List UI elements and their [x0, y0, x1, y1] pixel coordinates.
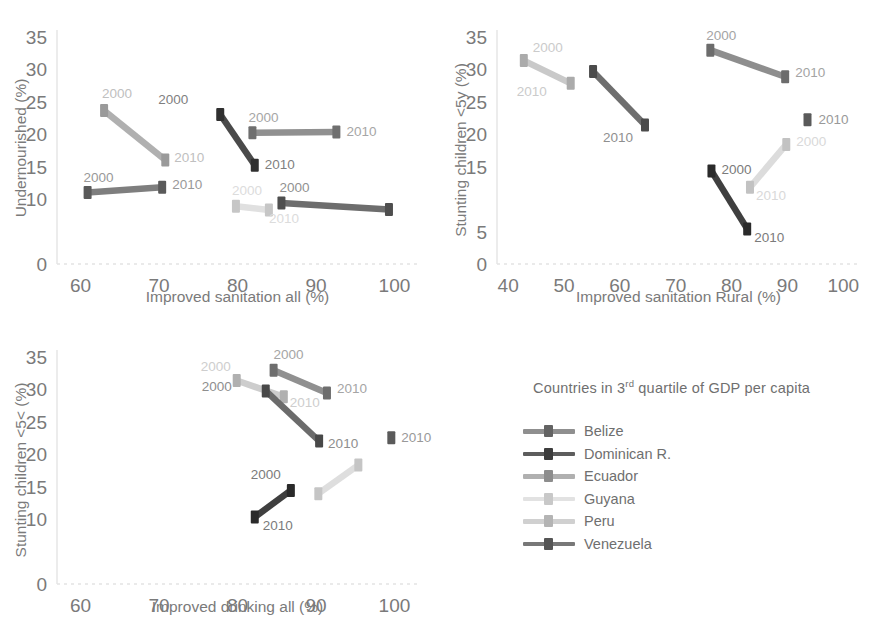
data-point-marker	[158, 181, 166, 194]
series-ecuador: 20002010	[100, 86, 204, 167]
data-point-marker	[804, 113, 812, 126]
y-tick-label: 10	[26, 509, 47, 530]
legend-item-belize[interactable]: Belize	[523, 420, 873, 443]
legend-swatch-icon	[523, 423, 575, 439]
legend-item-peru[interactable]: Peru	[523, 510, 873, 533]
data-point-marker	[641, 118, 649, 131]
series-venezuela: 2010	[589, 65, 649, 145]
data-point-marker	[323, 386, 331, 399]
data-point-year-label: 2010	[172, 177, 202, 192]
data-point-marker	[277, 196, 285, 209]
data-point-year-label: 2000	[533, 40, 563, 55]
y-tick-label: 20	[466, 124, 487, 145]
x-axis-title: Improved sanitation all (%)	[146, 288, 330, 305]
y-tick-label: 0	[476, 254, 487, 275]
data-point-marker	[354, 459, 362, 472]
series-line	[104, 111, 165, 160]
x-tick-label: 40	[498, 275, 519, 296]
data-point-year-label: 2000	[232, 183, 262, 198]
data-point-marker	[520, 54, 528, 67]
data-point-marker	[248, 126, 256, 139]
y-axis-title: Undernourished (%)	[12, 79, 29, 218]
data-point-year-label: 2010	[265, 157, 295, 172]
y-tick-label: 20	[26, 124, 47, 145]
legend-swatch-icon	[523, 446, 575, 462]
legend-item-ecuador[interactable]: Ecuador	[523, 465, 873, 488]
legend-item-guyana[interactable]: Guyana	[523, 487, 873, 510]
series-belize: 20002010	[706, 28, 825, 83]
plot-area: 010152025303560708090100Undernourished (…	[0, 0, 440, 320]
series-line	[237, 381, 284, 397]
y-tick-label: 0	[36, 254, 47, 275]
y-tick-label: 35	[466, 27, 487, 48]
data-point-marker	[287, 484, 295, 497]
data-point-year-label: 2000	[201, 359, 231, 374]
y-tick-label: 0	[36, 574, 47, 595]
y-tick-label: 25	[26, 92, 47, 113]
legend-item-dominican-r[interactable]: Dominican R.	[523, 442, 873, 465]
y-tick-label: 10	[26, 189, 47, 210]
y-tick-label: 35	[26, 347, 47, 368]
data-point-marker	[270, 364, 278, 377]
data-point-year-label: 2010	[174, 150, 204, 165]
x-tick-label: 60	[70, 595, 91, 616]
legend-item-label: Dominican R.	[584, 446, 671, 462]
data-point-year-label: 2010	[269, 211, 299, 226]
x-tick-label: 60	[70, 275, 91, 296]
data-point-marker	[707, 165, 715, 178]
legend-item-venezuela[interactable]: Venezuela	[523, 532, 873, 555]
series-line	[281, 203, 389, 210]
data-point-year-label: 2010	[795, 65, 825, 80]
plot-area: 051520253035405060708090100Stunting chil…	[440, 0, 876, 320]
data-point-year-label: 2010	[754, 230, 784, 245]
data-point-marker	[589, 65, 597, 78]
legend-swatch-icon	[523, 491, 575, 507]
data-point-marker	[746, 181, 754, 194]
series-line	[750, 144, 786, 187]
data-point-marker	[84, 186, 92, 199]
series-line	[236, 206, 269, 210]
legend-item-label: Peru	[584, 513, 615, 529]
data-point-year-label: 2000	[274, 347, 304, 362]
legend-swatch-icon	[523, 513, 575, 529]
data-point-year-label: 2000	[796, 134, 826, 149]
y-tick-label: 15	[26, 477, 47, 498]
data-point-year-label: 2010	[401, 430, 431, 445]
data-point-year-label: 2000	[279, 180, 309, 195]
y-tick-label: 30	[26, 379, 47, 400]
data-point-marker	[387, 431, 395, 444]
y-axis-title: Stunting children <5< (%)	[12, 383, 29, 558]
x-tick-label: 100	[827, 275, 859, 296]
x-tick-label: 100	[379, 595, 411, 616]
data-point-marker	[314, 487, 322, 500]
y-tick-label: 25	[26, 412, 47, 433]
data-point-year-label: 2000	[721, 162, 751, 177]
data-point-marker	[251, 159, 259, 172]
data-point-marker	[216, 108, 224, 121]
series-line	[274, 370, 327, 393]
series-line	[318, 465, 358, 494]
data-point-year-label: 2000	[84, 170, 114, 185]
legend-swatch-icon	[523, 536, 575, 552]
data-point-marker	[782, 138, 790, 151]
series-line	[710, 50, 785, 77]
series-peru: 2010	[387, 430, 431, 445]
legend-title: Countries in 3rd quartile of GDP per cap…	[533, 378, 873, 396]
series-line	[252, 132, 336, 133]
data-point-year-label: 2000	[202, 379, 232, 394]
legend-title-ordinal: rd	[625, 378, 634, 389]
x-tick-label: 50	[553, 275, 574, 296]
series-guyana: 20102000	[746, 134, 826, 203]
legend-item-label: Ecuador	[584, 468, 638, 484]
data-point-marker	[232, 200, 240, 213]
series-belize: 20002010	[248, 110, 376, 140]
x-axis-title: Improved sanitation Rural (%)	[576, 288, 781, 305]
x-axis-title: Improved drinking all (%)	[152, 598, 323, 615]
legend-item-label: Guyana	[584, 491, 635, 507]
y-tick-label: 35	[26, 27, 47, 48]
data-point-year-label: 2000	[102, 86, 132, 101]
data-point-year-label: 2010	[819, 112, 849, 127]
data-point-year-label: 2010	[346, 124, 376, 139]
series-line	[88, 187, 163, 192]
legend-list: BelizeDominican R.EcuadorGuyanaPeruVenez…	[523, 420, 873, 555]
